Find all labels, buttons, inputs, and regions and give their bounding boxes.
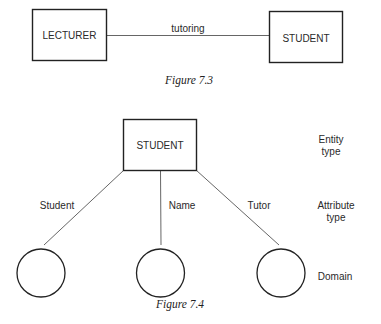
relationship-label: tutoring [171,23,204,34]
entity-label-student-main: STUDENT [136,140,183,151]
caption-figure-7-3: Figure 7.3 [164,74,213,87]
legend-attribute-type-line1: Attribute [317,200,355,211]
attribute-label-student: Student [40,200,75,211]
legend-domain: Domain [318,271,352,282]
legend-entity-type-line2: type [322,146,341,157]
legend-entity-type-line1: Entity [318,134,343,145]
figure-7-4: STUDENT Student Name Tutor Entity type A… [17,120,355,312]
attribute-line-name [161,170,162,245]
entity-label-lecturer: LECTURER [43,30,97,41]
entity-label-student: STUDENT [282,33,329,44]
er-diagrams: LECTURER STUDENT tutoring Figure 7.3 STU… [0,0,381,324]
attribute-label-tutor: Tutor [248,200,272,211]
domain-circle-tutor [257,249,305,297]
attribute-label-name: Name [169,200,196,211]
domain-circle-student [17,249,65,297]
domain-circle-name [137,249,185,297]
caption-figure-7-4: Figure 7.4 [155,298,204,311]
figure-7-3: LECTURER STUDENT tutoring Figure 7.3 [33,10,343,88]
legend-attribute-type-line2: type [327,212,346,223]
